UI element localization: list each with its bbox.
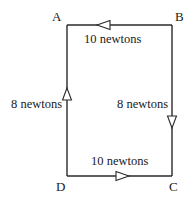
vertex-c-label: C bbox=[169, 179, 178, 194]
force-label-dc: 10 newtons bbox=[91, 154, 148, 168]
force-label-da: 8 newtons bbox=[11, 97, 62, 111]
arrow-down-icon bbox=[168, 116, 177, 128]
vertex-a-label: A bbox=[52, 9, 62, 24]
vertex-b-label: B bbox=[175, 9, 184, 24]
arrow-left-icon bbox=[97, 21, 110, 30]
arrow-right-icon bbox=[116, 172, 129, 181]
force-label-bc: 8 newtons bbox=[117, 97, 168, 111]
arrow-up-icon bbox=[63, 88, 72, 100]
force-label-ba: 10 newtons bbox=[84, 32, 141, 46]
vertex-d-label: D bbox=[56, 179, 65, 194]
force-diagram: A B C D 10 newtons 8 newtons 10 newtons … bbox=[0, 0, 191, 197]
